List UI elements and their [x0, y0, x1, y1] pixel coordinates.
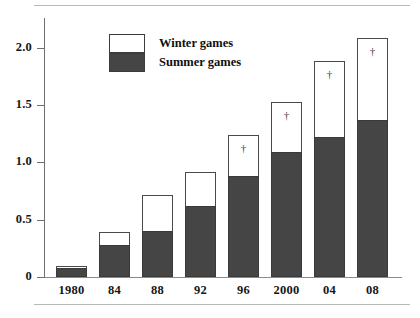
legend-swatch-summer — [109, 53, 145, 72]
y-axis-tick-label: 1.5 — [16, 97, 32, 112]
bar-segment-winter: † — [357, 38, 388, 121]
x-axis-tick-label-88: 88 — [134, 283, 181, 298]
y-axis-tick-label: 2.0 — [16, 40, 32, 55]
bar-segment-winter — [99, 232, 130, 246]
bar-segment-winter: † — [314, 61, 345, 139]
bar-segment-winter — [142, 195, 173, 233]
dagger-annotation: † — [315, 69, 344, 80]
bar-04: † — [314, 61, 345, 277]
dagger-annotation: † — [358, 46, 387, 57]
bar-segment-summer — [314, 137, 345, 277]
bar-92 — [185, 172, 216, 277]
y-axis-line — [44, 18, 45, 278]
x-axis-tick-label-1980: 1980 — [48, 283, 95, 298]
bar-segment-summer — [228, 176, 259, 277]
y-axis-tick: 1.5 — [37, 105, 45, 106]
bar-96: † — [228, 135, 259, 277]
bar-segment-winter — [185, 172, 216, 207]
figure-top-rule — [34, 5, 410, 6]
legend-swatch-winter — [109, 34, 145, 53]
y-axis-tick-label: 1.0 — [16, 154, 32, 169]
x-axis-tick-label-92: 92 — [177, 283, 224, 298]
x-axis-tick-label-04: 04 — [306, 283, 353, 298]
x-axis-tick-label-96: 96 — [220, 283, 267, 298]
x-axis-tick-label-08: 08 — [349, 283, 396, 298]
x-axis-tick-label-84: 84 — [91, 283, 138, 298]
plot-area: 00.51.01.52.0 †††† 19808488929620000408 … — [44, 12, 404, 278]
y-axis-tick: 2.0 — [37, 48, 45, 49]
bar-1980 — [56, 266, 87, 277]
bar-segment-summer — [357, 120, 388, 277]
legend-label-winter: Winter games — [159, 36, 233, 51]
legend-label-summer: Summer games — [159, 55, 241, 70]
bar-segment-winter: † — [271, 102, 302, 153]
figure-container: 00.51.01.52.0 †††† 19808488929620000408 … — [0, 0, 420, 318]
y-axis-tick: 1.0 — [37, 162, 45, 163]
bar-segment-summer — [56, 268, 87, 277]
figure-bottom-rule — [34, 304, 410, 305]
bar-2000: † — [271, 102, 302, 277]
bar-segment-summer — [271, 152, 302, 277]
bar-segment-winter: † — [228, 135, 259, 177]
y-axis-tick: 0 — [37, 277, 45, 278]
bar-08: † — [357, 38, 388, 277]
dagger-annotation: † — [229, 143, 258, 154]
y-axis-tick: 0.5 — [37, 220, 45, 221]
bar-88 — [142, 195, 173, 277]
bar-84 — [99, 232, 130, 277]
x-axis-tick-label-2000: 2000 — [263, 283, 310, 298]
bar-segment-summer — [142, 231, 173, 277]
x-axis-line — [44, 277, 402, 278]
y-axis-tick-label: 0.5 — [16, 212, 32, 227]
bar-segment-summer — [185, 206, 216, 277]
y-axis-tick-label: 0 — [26, 269, 32, 284]
bar-segment-summer — [99, 245, 130, 277]
dagger-annotation: † — [272, 110, 301, 121]
